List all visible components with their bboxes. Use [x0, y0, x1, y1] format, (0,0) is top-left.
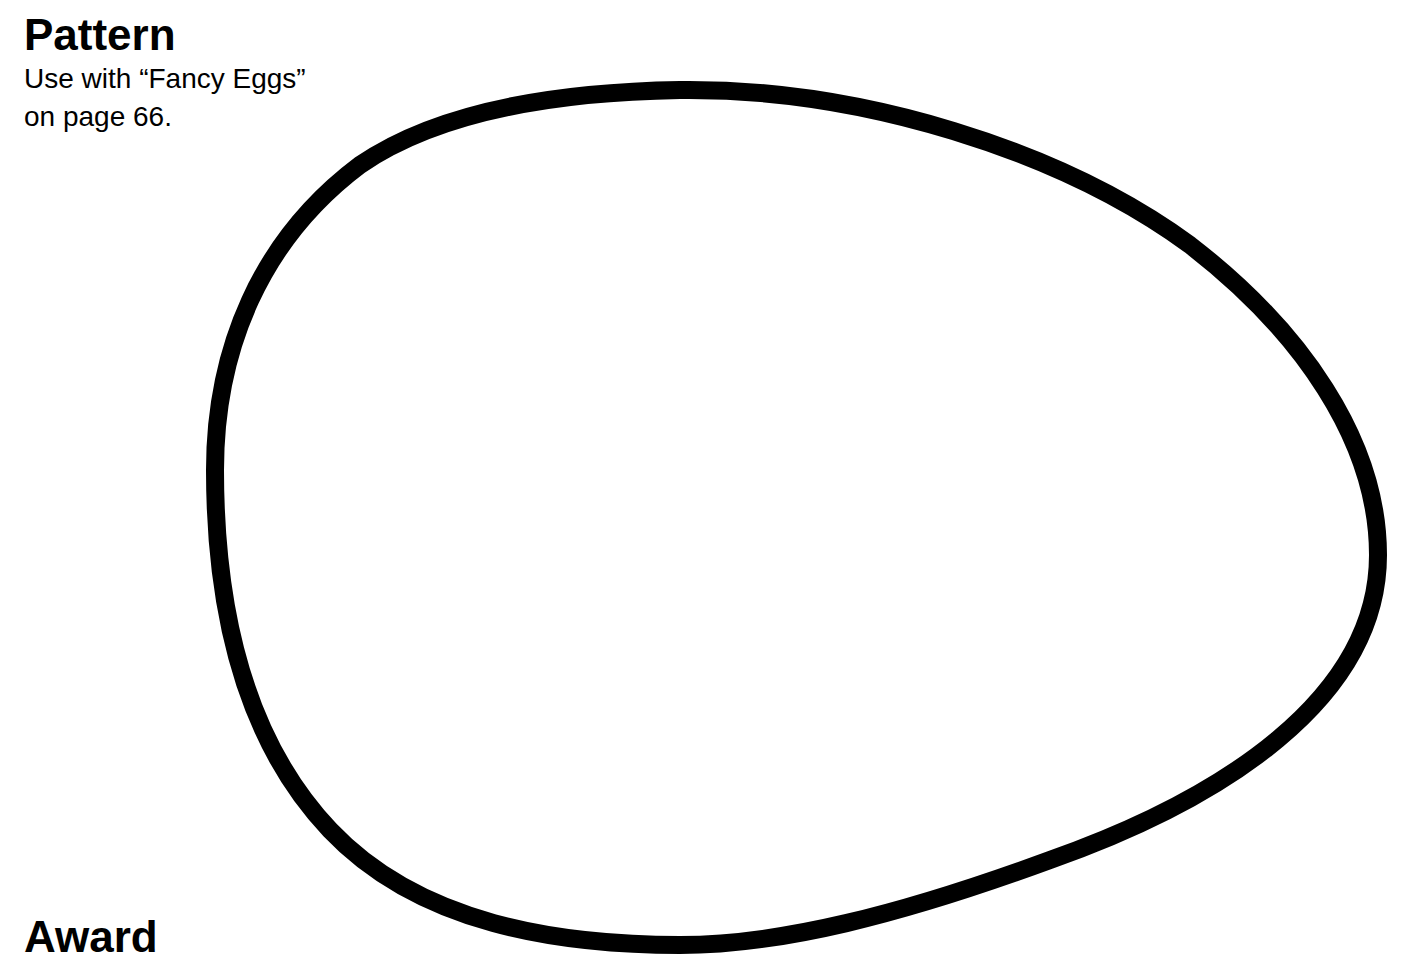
egg-outline-shape — [0, 0, 1419, 963]
award-heading: Award — [24, 912, 158, 962]
egg-outline-path — [215, 90, 1378, 945]
